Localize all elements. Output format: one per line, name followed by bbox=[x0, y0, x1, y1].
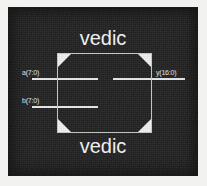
module-name-top: vedic bbox=[8, 27, 198, 49]
corner-handle-bottom-left-icon bbox=[58, 119, 71, 132]
figure-canvas: vedic a(7:0) b(7:0) y(16:0) vedic bbox=[0, 0, 207, 186]
schematic-viewport: vedic a(7:0) b(7:0) y(16:0) vedic bbox=[8, 7, 198, 176]
corner-handle-bottom-right-icon bbox=[138, 119, 151, 132]
port-label-a: a(7:0) bbox=[22, 69, 39, 77]
port-label-b: b(7:0) bbox=[22, 97, 39, 105]
module-name-bottom: vedic bbox=[8, 135, 198, 157]
corner-handle-top-left-icon bbox=[58, 54, 71, 67]
component-block[interactable] bbox=[57, 53, 152, 133]
corner-handle-top-right-icon bbox=[138, 54, 151, 67]
port-label-y: y(16:0) bbox=[156, 69, 176, 77]
